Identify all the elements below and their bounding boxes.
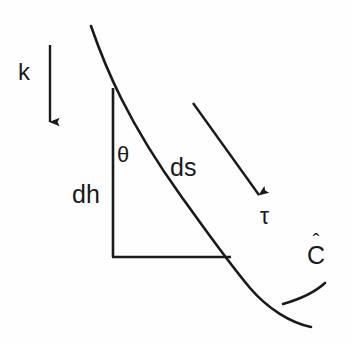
slope-curve <box>91 26 311 327</box>
circumflex-accent: ˆ <box>313 231 320 251</box>
label-ds: ds <box>170 155 196 180</box>
label-c-hat: ˆ C <box>307 243 325 268</box>
c-hat-pointer-tick <box>283 283 325 304</box>
figure-canvas: k dh θ ds τ ˆ C <box>0 0 351 344</box>
label-k: k <box>18 60 30 84</box>
tau-arrow <box>193 103 259 195</box>
c-hat-wrapper: ˆ C <box>307 243 325 268</box>
label-tau: τ <box>260 205 269 228</box>
label-dh: dh <box>72 182 100 207</box>
label-theta: θ <box>117 144 129 166</box>
